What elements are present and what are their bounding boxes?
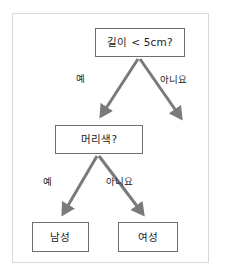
edge-label-hair-yes: 예 — [43, 177, 52, 187]
edge-label-root-yes: 예 — [76, 74, 85, 84]
node-hair-color: 머리색? — [55, 125, 143, 154]
diagram-canvas: 길이 < 5cm? 머리색? 남성 여성 예 아니요 예 아니요 — [0, 0, 231, 278]
edge-root-no-arrow — [140, 59, 181, 118]
edge-label-hair-no: 아니요 — [106, 177, 133, 187]
edge-label-root-no: 아니요 — [160, 75, 187, 85]
node-root: 길이 < 5cm? — [95, 28, 185, 57]
node-leaf-female: 여성 — [118, 222, 178, 252]
edge-root-yes-arrow — [101, 59, 138, 116]
node-leaf-male: 남성 — [32, 222, 89, 252]
edge-hair-yes-arrow — [63, 156, 97, 214]
